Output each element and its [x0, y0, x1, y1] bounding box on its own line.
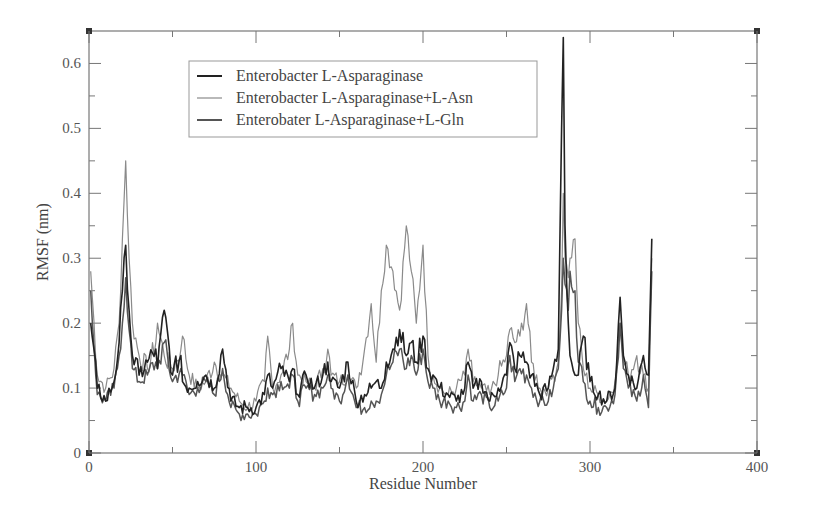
- legend-label: Enterobacter L-Asparaginase: [236, 67, 423, 85]
- y-tick-label: 0: [74, 445, 82, 461]
- y-tick-label: 0.2: [62, 315, 81, 331]
- series-line: [91, 161, 652, 411]
- x-tick-label: 100: [245, 459, 268, 475]
- legend-item: Enterobater L-Asparaginase+L-Gln: [197, 111, 464, 129]
- legend-item: Enterobacter L-Asparaginase+L-Asn: [197, 89, 473, 107]
- x-tick-label: 300: [579, 459, 602, 475]
- x-tick-label: 200: [412, 459, 435, 475]
- x-axis-title: Residue Number: [369, 475, 478, 492]
- y-tick-label: 0.4: [62, 185, 81, 201]
- legend-label: Enterobacter L-Asparaginase+L-Asn: [236, 89, 473, 107]
- legend-label: Enterobater L-Asparaginase+L-Gln: [236, 111, 464, 129]
- x-tick-label: 0: [85, 459, 93, 475]
- y-axis-title: RMSF (nm): [34, 203, 52, 281]
- y-tick-label: 0.1: [62, 380, 81, 396]
- y-tick-label: 0.6: [62, 55, 81, 71]
- x-tick-label: 400: [746, 459, 769, 475]
- y-tick-label: 0.3: [62, 250, 81, 266]
- y-tick-label: 0.5: [62, 120, 81, 136]
- series-line: [91, 258, 652, 420]
- legend: Enterobacter L-Asparaginase Enterobacter…: [189, 61, 537, 137]
- rmsf-line-chart: 00.10.20.30.40.50.6 0100200300400 Entero…: [0, 0, 814, 510]
